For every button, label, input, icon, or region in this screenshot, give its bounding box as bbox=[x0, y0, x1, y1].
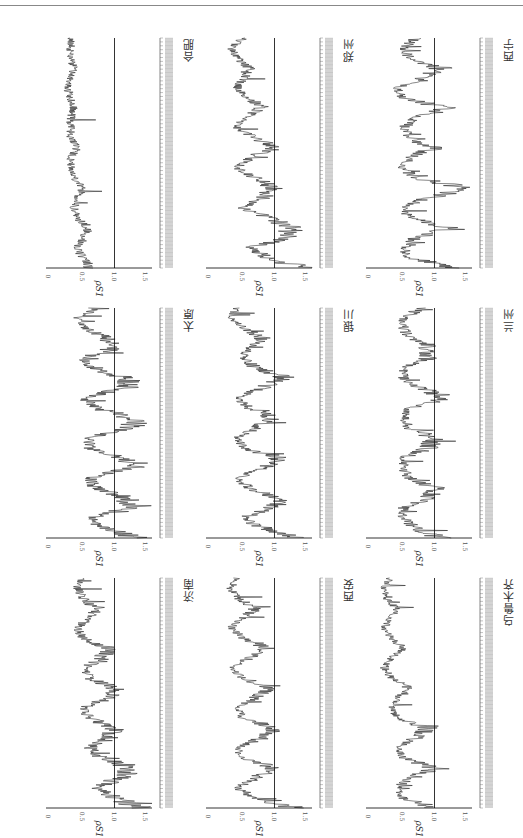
city-label: 银川 bbox=[342, 308, 358, 332]
chart-panel: 1.51.00.50ρS1郑州 bbox=[190, 30, 340, 280]
y-tick-label: 0.5 bbox=[80, 812, 87, 822]
line-chart bbox=[30, 30, 180, 280]
line-chart bbox=[190, 300, 340, 550]
city-label: 西安 bbox=[342, 578, 358, 602]
y-axis-label: ρS1 bbox=[93, 280, 103, 297]
y-tick-label: 0.5 bbox=[400, 812, 407, 822]
y-tick-label: 1.0 bbox=[111, 272, 118, 282]
y-tick-label: 1.5 bbox=[462, 812, 469, 822]
y-tick-label: 0.5 bbox=[240, 542, 247, 552]
y-tick-label: 1.0 bbox=[431, 542, 438, 552]
y-tick-label: 1.5 bbox=[142, 542, 149, 552]
y-tick-label: 1.5 bbox=[462, 542, 469, 552]
line-chart bbox=[190, 30, 340, 280]
y-tick-label: 1.0 bbox=[431, 812, 438, 822]
data-series bbox=[74, 308, 152, 538]
y-axis-label: ρS1 bbox=[253, 550, 263, 567]
y-tick-label: 1.5 bbox=[142, 272, 149, 282]
data-series bbox=[380, 578, 449, 808]
y-axis-label: ρS1 bbox=[253, 820, 263, 837]
data-series bbox=[227, 578, 304, 808]
y-tick-label: 0.5 bbox=[400, 542, 407, 552]
y-tick-label: 0 bbox=[45, 545, 52, 549]
chart-panel: 1.51.00.50ρS1银川 bbox=[190, 300, 340, 550]
chart-panel: 1.51.00.50ρS1太原 bbox=[30, 300, 180, 550]
y-axis-label: ρS1 bbox=[253, 280, 263, 297]
city-label: 兰州 bbox=[502, 308, 518, 332]
y-tick-label: 0 bbox=[205, 545, 212, 549]
chart-panel: 1.51.00.50ρS1西宁 bbox=[350, 30, 500, 280]
data-series bbox=[228, 308, 303, 538]
y-tick-label: 1.5 bbox=[302, 542, 309, 552]
chart-panel: 1.51.00.50ρS1西安 bbox=[190, 570, 340, 820]
y-tick-label: 1.5 bbox=[302, 272, 309, 282]
y-tick-label: 1.0 bbox=[271, 812, 278, 822]
y-tick-label: 0.5 bbox=[240, 272, 247, 282]
y-tick-label: 1.0 bbox=[111, 812, 118, 822]
line-chart bbox=[190, 570, 340, 820]
city-label: 郑州 bbox=[342, 38, 358, 62]
y-tick-label: 0.5 bbox=[400, 272, 407, 282]
y-tick-label: 1.5 bbox=[142, 812, 149, 822]
y-tick-label: 1.0 bbox=[271, 542, 278, 552]
line-chart bbox=[30, 300, 180, 550]
data-series bbox=[228, 38, 312, 268]
line-chart bbox=[350, 300, 500, 550]
y-axis-label: ρS1 bbox=[93, 550, 103, 567]
city-label: 西宁 bbox=[502, 38, 518, 62]
y-axis-label: ρS1 bbox=[413, 280, 423, 297]
y-tick-label: 0 bbox=[365, 815, 372, 819]
chart-panel: 1.51.00.50ρS1兰州 bbox=[350, 300, 500, 550]
y-tick-label: 1.0 bbox=[111, 542, 118, 552]
y-tick-label: 0 bbox=[365, 545, 372, 549]
y-tick-label: 0 bbox=[45, 815, 52, 819]
y-tick-label: 0 bbox=[205, 815, 212, 819]
city-label: 乌鲁木齐 bbox=[502, 578, 518, 626]
line-chart bbox=[350, 570, 500, 820]
y-tick-label: 1.5 bbox=[462, 272, 469, 282]
chart-panel: 1.51.00.50ρS1合肥 bbox=[30, 30, 180, 280]
data-series bbox=[74, 578, 153, 808]
y-tick-label: 0.5 bbox=[240, 812, 247, 822]
y-tick-label: 1.5 bbox=[302, 812, 309, 822]
y-axis-label: ρS1 bbox=[413, 550, 423, 567]
city-label: 济南 bbox=[182, 578, 198, 602]
y-tick-label: 1.0 bbox=[431, 272, 438, 282]
chart-panel: 1.51.00.50ρS1乌鲁木齐 bbox=[350, 570, 500, 820]
chart-panel: 1.51.00.50ρS1济南 bbox=[30, 570, 180, 820]
y-axis-label: ρS1 bbox=[413, 820, 423, 837]
line-chart bbox=[30, 570, 180, 820]
data-series bbox=[64, 38, 102, 268]
y-tick-label: 0 bbox=[45, 275, 52, 279]
data-series bbox=[393, 38, 470, 268]
y-tick-label: 0 bbox=[365, 275, 372, 279]
data-series bbox=[398, 308, 456, 538]
y-tick-label: 0.5 bbox=[80, 272, 87, 282]
y-tick-label: 1.0 bbox=[271, 272, 278, 282]
y-tick-label: 0 bbox=[205, 275, 212, 279]
line-chart bbox=[350, 30, 500, 280]
city-label: 合肥 bbox=[182, 38, 198, 62]
y-tick-label: 0.5 bbox=[80, 542, 87, 552]
y-axis-label: ρS1 bbox=[93, 820, 103, 837]
city-label: 太原 bbox=[182, 308, 198, 332]
